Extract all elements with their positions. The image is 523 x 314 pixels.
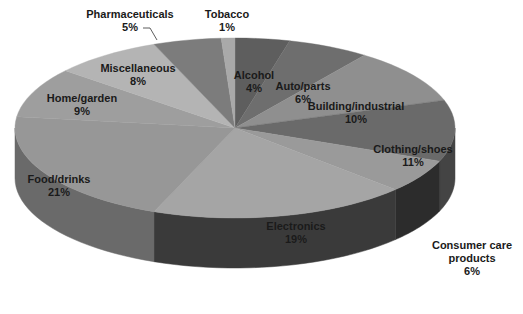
data-label-consumer-care-products: Consumer careproducts6% xyxy=(432,239,512,277)
data-label-pharmaceuticals: Pharmaceuticals5% xyxy=(86,8,173,33)
data-label-tobacco: Tobacco1% xyxy=(205,8,250,33)
pharmaceuticals-leader-line xyxy=(143,28,157,40)
pie-slices xyxy=(15,38,455,218)
pie-chart-canvas: Alcohol4%Auto/parts6%Building/industrial… xyxy=(0,0,523,314)
pie-chart: Alcohol4%Auto/parts6%Building/industrial… xyxy=(0,0,523,314)
